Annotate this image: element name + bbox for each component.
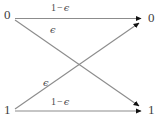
edge-label-1-1: 1−ϵ: [51, 97, 69, 107]
edge-label-0-0-minus: −: [56, 2, 64, 13]
edge-label-1-1-epsilon: ϵ: [64, 96, 70, 107]
edge-label-0-0-epsilon: ϵ: [64, 2, 70, 13]
bsc-diagram: 0 1 0 1 1−ϵ ϵ ϵ 1−ϵ: [0, 0, 160, 123]
diagram-canvas: [0, 0, 160, 123]
edge-line-1-0: [15, 23, 139, 109]
output-node-1: 1: [148, 103, 155, 116]
edge-label-1-1-minus: −: [56, 96, 64, 107]
output-node-0: 0: [148, 11, 155, 24]
edge-line-0-1: [15, 20, 139, 106]
edge-label-1-0-epsilon: ϵ: [43, 77, 49, 88]
input-node-0: 0: [4, 8, 11, 21]
edge-label-0-1: ϵ: [50, 25, 56, 35]
edge-label-0-1-epsilon: ϵ: [50, 24, 56, 35]
input-node-1: 1: [4, 103, 11, 116]
edge-label-1-0: ϵ: [43, 78, 49, 88]
edge-label-0-0: 1−ϵ: [51, 3, 69, 13]
